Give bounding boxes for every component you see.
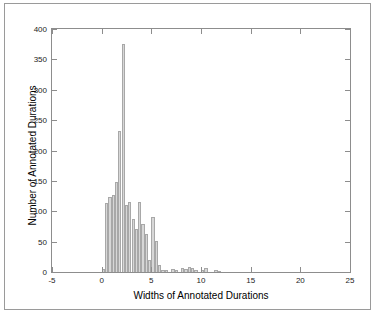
y-axis-tick-right bbox=[345, 151, 350, 152]
plot-box bbox=[51, 28, 351, 273]
x-axis-title: Widths of Annotated Durations bbox=[51, 290, 351, 301]
y-axis-tick-label: 50 bbox=[25, 237, 47, 246]
x-axis-tick-top bbox=[151, 29, 152, 34]
y-axis-tick bbox=[52, 242, 57, 243]
x-axis-tick-top bbox=[201, 29, 202, 34]
y-axis-tick bbox=[52, 90, 57, 91]
y-axis-tick-label: 100 bbox=[25, 207, 47, 216]
y-axis-tick-right bbox=[345, 90, 350, 91]
y-axis-tick-right bbox=[345, 29, 350, 30]
y-axis-tick-label: 250 bbox=[25, 116, 47, 125]
y-axis-tick-right bbox=[345, 59, 350, 60]
x-axis-tick-top bbox=[251, 29, 252, 34]
y-axis-tick-right bbox=[345, 211, 350, 212]
figure-frame: Widths of Annotated Durations Number of … bbox=[4, 3, 371, 310]
y-axis-tick bbox=[52, 181, 57, 182]
plot-area bbox=[52, 29, 350, 272]
histogram-bar bbox=[175, 270, 178, 272]
histogram-bar bbox=[218, 271, 221, 272]
x-axis-tick bbox=[300, 267, 301, 272]
y-axis-tick-right bbox=[345, 181, 350, 182]
y-axis-tick-label: 400 bbox=[25, 25, 47, 34]
y-axis-tick-right bbox=[345, 120, 350, 121]
x-axis-tick-top bbox=[300, 29, 301, 34]
x-axis-tick bbox=[151, 267, 152, 272]
x-axis-tick-label: 25 bbox=[346, 276, 355, 285]
x-axis-tick-label: 5 bbox=[149, 276, 153, 285]
y-axis-tick-label: 350 bbox=[25, 55, 47, 64]
x-axis-tick bbox=[201, 267, 202, 272]
x-axis-tick-label: -5 bbox=[48, 276, 55, 285]
x-axis-tick-label: 15 bbox=[246, 276, 255, 285]
y-axis-tick-right bbox=[345, 242, 350, 243]
x-axis-tick-label: 20 bbox=[296, 276, 305, 285]
x-axis-tick bbox=[102, 267, 103, 272]
x-axis-tick-top bbox=[102, 29, 103, 34]
x-axis-tick-label: 0 bbox=[99, 276, 103, 285]
y-axis-tick-label: 200 bbox=[25, 146, 47, 155]
histogram-chart: Widths of Annotated Durations Number of … bbox=[5, 4, 372, 311]
y-axis-tick-label: 300 bbox=[25, 85, 47, 94]
histogram-bar bbox=[204, 268, 207, 272]
histogram-bar bbox=[165, 270, 168, 272]
x-axis-tick-label: 10 bbox=[197, 276, 206, 285]
y-axis-tick bbox=[52, 59, 57, 60]
x-axis-tick bbox=[251, 267, 252, 272]
y-axis-tick bbox=[52, 120, 57, 121]
y-axis-tick bbox=[52, 211, 57, 212]
y-axis-tick bbox=[52, 151, 57, 152]
y-axis-tick bbox=[52, 29, 57, 30]
y-axis-tick-label: 150 bbox=[25, 176, 47, 185]
histogram-bar bbox=[194, 270, 197, 272]
y-axis-tick-label: 0 bbox=[25, 268, 47, 277]
